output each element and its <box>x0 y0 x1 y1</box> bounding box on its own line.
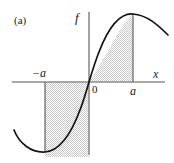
tick-label-negative-a: −a <box>32 67 46 79</box>
y-axis-label: f <box>75 11 79 24</box>
function-curve <box>14 14 168 152</box>
x-axis-label: x <box>153 68 158 80</box>
shaded-area-positive <box>89 14 133 82</box>
origin-label: 0 <box>92 84 98 95</box>
figure-panel-a: (a) f x 0 −a a <box>0 0 174 163</box>
panel-label: (a) <box>14 15 26 26</box>
tick-label-positive-a: a <box>130 85 136 97</box>
shaded-area-negative <box>45 82 89 157</box>
